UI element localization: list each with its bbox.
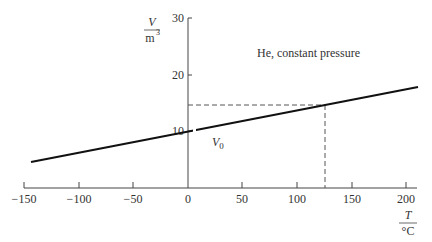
svg-text:m: m <box>145 31 155 45</box>
svg-text:10: 10 <box>172 124 184 138</box>
svg-text:−100: −100 <box>67 192 92 206</box>
chart: −150 −100 −50 0 50 100 150 200 10 20 30 … <box>0 0 432 242</box>
svg-text:T: T <box>405 208 413 222</box>
svg-text:50: 50 <box>236 192 248 206</box>
svg-text:V: V <box>148 15 157 29</box>
svg-text:3: 3 <box>156 28 160 37</box>
svg-text:150: 150 <box>343 192 361 206</box>
svg-text:100: 100 <box>288 192 306 206</box>
x-tick-labels: −150 −100 −50 0 50 100 150 200 <box>12 192 415 206</box>
svg-text:0: 0 <box>185 192 191 206</box>
y-ticks <box>188 75 192 131</box>
v0-label: V0 <box>212 135 224 151</box>
y-axis-label: V m 3 <box>144 15 160 45</box>
x-ticks <box>24 182 406 188</box>
x-axis-label: T °C <box>399 208 417 238</box>
svg-text:20: 20 <box>172 68 184 82</box>
svg-text:−50: −50 <box>124 192 143 206</box>
svg-text:−150: −150 <box>12 192 37 206</box>
annotation: He, constant pressure <box>257 46 360 60</box>
svg-text:°C: °C <box>402 224 415 238</box>
y-tick-labels: 10 20 30 <box>172 11 184 138</box>
svg-text:200: 200 <box>397 192 415 206</box>
line-gap <box>193 126 196 132</box>
data-line <box>31 87 418 162</box>
svg-text:30: 30 <box>172 11 184 25</box>
